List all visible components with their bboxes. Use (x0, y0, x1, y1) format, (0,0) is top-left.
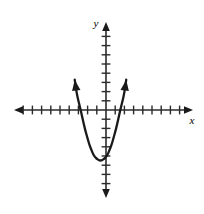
parabola-left-arrowhead (72, 80, 80, 91)
y-axis-label: y (93, 17, 99, 29)
parabola-curve (75, 80, 127, 161)
coordinate-plane: x y (0, 0, 204, 214)
parabola-curve-group (72, 80, 129, 161)
graph-figure: x y (0, 0, 204, 214)
y-axis-top-arrowhead (102, 22, 110, 31)
parabola-right-arrowhead (121, 80, 129, 91)
x-axis-group (14, 106, 193, 115)
x-axis-label: x (189, 114, 195, 126)
x-axis-right-arrowhead (184, 106, 193, 114)
x-axis-left-arrowhead (14, 106, 23, 114)
y-axis-bottom-arrowhead (102, 189, 110, 198)
